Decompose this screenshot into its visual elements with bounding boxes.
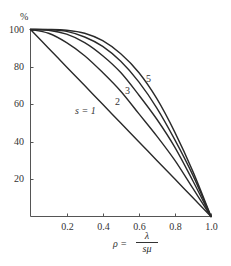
x-tick-label: 0.4 xyxy=(92,222,116,232)
curves xyxy=(31,29,212,216)
x-axis-label-rho: ρ = xyxy=(113,239,127,249)
fraction-numerator: λ xyxy=(145,231,149,241)
y-tick-label: 100 xyxy=(2,25,24,35)
x-tick-label: 1.0 xyxy=(200,222,224,232)
chart-plot-area xyxy=(0,0,231,266)
y-tick-label: 60 xyxy=(2,99,24,109)
curve-label-s1: s = 1 xyxy=(75,106,96,116)
y-tick-label: 40 xyxy=(2,137,24,147)
x-tick-label: 0.2 xyxy=(56,222,80,232)
y-tick-label: 20 xyxy=(2,174,24,184)
curve-label-s2: 2 xyxy=(115,97,120,107)
curve-label-s3: 3 xyxy=(125,86,130,96)
curve-label-s5: 5 xyxy=(146,74,151,84)
y-tick-label: 80 xyxy=(2,62,24,72)
fraction-denominator: sμ xyxy=(143,244,152,254)
x-tick-label: 0.8 xyxy=(164,222,188,232)
x-axis-label-fraction: λ sμ xyxy=(136,231,158,254)
y-unit-label: % xyxy=(20,12,28,22)
curve-s1 xyxy=(31,30,212,217)
